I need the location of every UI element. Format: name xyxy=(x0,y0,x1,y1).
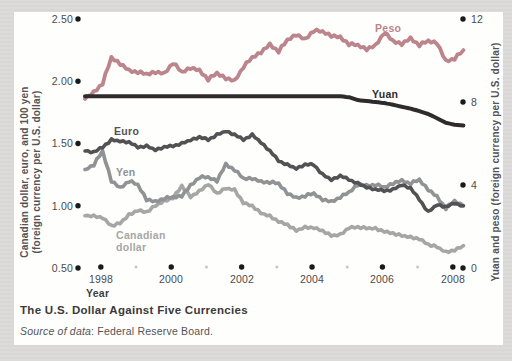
x-tick-label: 2004 xyxy=(292,273,332,285)
x-axis-title: Year xyxy=(86,287,109,299)
x-tick-label: 2006 xyxy=(362,273,402,285)
series-label-peso: Peso xyxy=(375,22,401,34)
series-label-canadian-dollar: Canadian dollar xyxy=(116,229,170,253)
figure-source-value: : Federal Reserve Board. xyxy=(91,325,213,337)
y-axis-left-title-line2: (foreign currency per U.S. dollar) xyxy=(31,86,43,257)
figure-source: Source of data: Federal Reserve Board. xyxy=(20,325,213,337)
x-tick-label: 2000 xyxy=(151,273,191,285)
y-axis-right-title: Yuan and peso (foreign currency per U.S.… xyxy=(490,42,501,281)
y-left-tick-label: 1.00 xyxy=(40,200,73,212)
x-tick-label: 2002 xyxy=(222,273,262,285)
y-left-tick-label: 1.50 xyxy=(40,137,73,149)
series-label-yen: Yen xyxy=(116,166,136,178)
y-right-tick-label: 8 xyxy=(471,96,477,108)
x-tick-label: 1998 xyxy=(81,273,121,285)
figure-source-label: Source of data xyxy=(20,325,91,337)
y-left-tick-label: 2.00 xyxy=(40,75,73,87)
x-tick-label: 2008 xyxy=(433,273,473,285)
y-axis-left-title-line1: Canadian dollar, euro, and 100 yen xyxy=(19,86,31,257)
y-right-tick-label: 12 xyxy=(471,13,483,25)
y-left-tick-label: 2.50 xyxy=(40,13,73,25)
page-background: { "page": { "background_color": "#dbdad8… xyxy=(0,0,512,361)
figure-title: The U.S. Dollar Against Five Currencies xyxy=(20,304,248,316)
series-label-euro: Euro xyxy=(114,125,139,137)
series-label-yuan: Yuan xyxy=(372,88,398,100)
y-right-tick-label: 4 xyxy=(471,179,477,191)
y-axis-left-title: Canadian dollar, euro, and 100 yen (fore… xyxy=(19,86,43,257)
y-left-tick-label: 0.50 xyxy=(40,262,73,274)
